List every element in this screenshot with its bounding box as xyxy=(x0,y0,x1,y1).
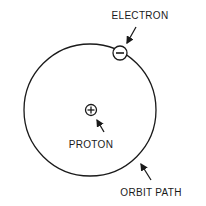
electron-arrow xyxy=(127,27,136,43)
diagram-canvas: ELECTRON PROTON ORBIT PATH xyxy=(0,0,206,206)
electron-label: ELECTRON xyxy=(112,10,169,21)
proton-arrow xyxy=(97,120,104,132)
proton-label: PROTON xyxy=(69,139,113,150)
atom-diagram: ELECTRON PROTON ORBIT PATH xyxy=(0,0,206,206)
orbit-arrow xyxy=(141,164,151,180)
electron xyxy=(113,46,127,60)
proton xyxy=(86,105,97,116)
orbit-path-label: ORBIT PATH xyxy=(120,187,181,198)
